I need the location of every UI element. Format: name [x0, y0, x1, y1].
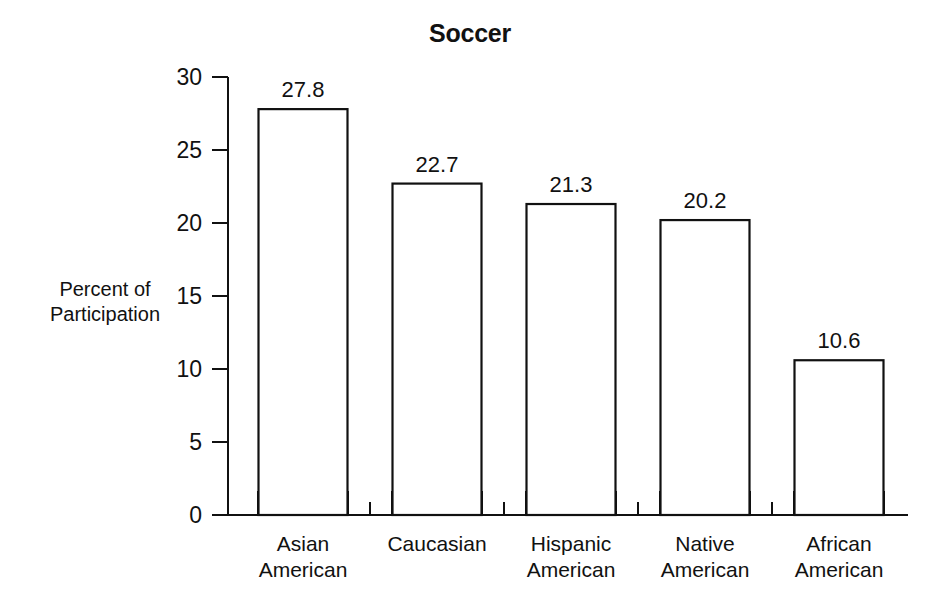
- x-category-label: American: [661, 558, 750, 581]
- y-tick-label: 30: [176, 64, 202, 90]
- x-category-label: American: [259, 558, 348, 581]
- bar-value-label: 20.2: [684, 188, 727, 213]
- chart-title: Soccer: [429, 19, 512, 47]
- x-category-label: Hispanic: [531, 532, 612, 555]
- x-category-label: American: [527, 558, 616, 581]
- bar: [527, 204, 616, 515]
- y-tick-label: 10: [176, 356, 202, 382]
- bar: [795, 360, 884, 515]
- y-axis-title-line-1: Percent of: [59, 278, 151, 300]
- chart-canvas: Soccer Percent of Participation 05101520…: [0, 0, 948, 609]
- x-category-label: African: [806, 532, 871, 555]
- bars-group: [259, 109, 884, 515]
- bar: [661, 220, 750, 515]
- x-category-label: Caucasian: [387, 532, 486, 555]
- y-axis-ticks: 051015202530: [176, 64, 228, 528]
- x-category-label: Asian: [277, 532, 330, 555]
- bar-value-label: 21.3: [550, 172, 593, 197]
- bar-value-label: 22.7: [416, 152, 459, 177]
- y-axis-title: Percent of Participation: [50, 278, 160, 325]
- x-axis-category-labels: AsianAmericanCaucasianHispanicAmericanNa…: [259, 532, 884, 581]
- bar: [393, 184, 482, 515]
- y-tick-label: 15: [176, 283, 202, 309]
- y-tick-label: 25: [176, 137, 202, 163]
- bar-value-label: 10.6: [818, 328, 861, 353]
- y-tick-label: 5: [189, 429, 202, 455]
- bar-chart-figure: Soccer Percent of Participation 05101520…: [0, 0, 948, 609]
- bar: [259, 109, 348, 515]
- bar-value-label: 27.8: [282, 77, 325, 102]
- x-category-label: American: [795, 558, 884, 581]
- y-tick-label: 0: [189, 502, 202, 528]
- x-category-label: Native: [675, 532, 735, 555]
- y-axis-title-line-2: Participation: [50, 303, 160, 325]
- y-tick-label: 20: [176, 210, 202, 236]
